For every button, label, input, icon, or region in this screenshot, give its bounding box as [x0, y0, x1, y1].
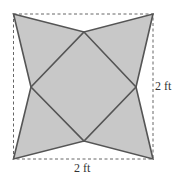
- star-figure: [0, 0, 176, 178]
- shaded-star: [14, 14, 154, 159]
- right-side-label: 2 ft: [155, 79, 171, 94]
- bottom-side-label: 2 ft: [74, 161, 90, 176]
